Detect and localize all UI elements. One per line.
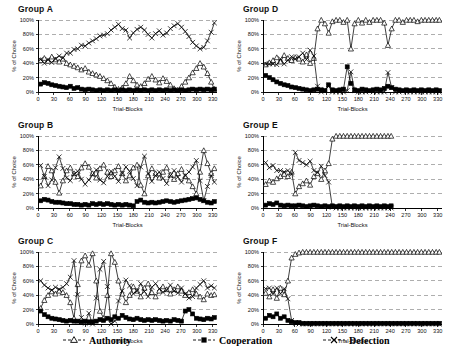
defection-marker [201,45,206,50]
cooperation-marker [142,318,146,322]
series-authority [263,133,394,195]
defection-marker [142,28,147,33]
defection-marker [164,181,169,186]
x-tick-label: 240 [160,212,169,218]
cooperation-marker [150,200,154,204]
legend-label: Cooperation [219,335,272,346]
cooperation-marker [165,88,169,92]
cooperation-marker [79,87,83,91]
authority-marker [212,292,217,297]
defection-marker [308,48,313,53]
cooperation-marker [205,87,209,91]
cooperation-marker [286,84,290,88]
authority-marker [123,81,128,86]
y-axis-title: % of Choice [236,156,242,187]
figure-panel-grid: Group A0%20%40%60%80%100%030609012015018… [0,0,450,363]
legend-marker [331,337,337,343]
cooperation-marker [401,89,405,93]
cooperation-marker [98,318,102,322]
cooperation-marker [124,316,128,320]
cooperation-marker [316,204,320,208]
y-tick-label: 20% [23,191,34,197]
defection-marker [53,165,58,170]
cooperation-marker [102,89,106,93]
cooperation-marker [286,318,290,322]
x-tick-label: 270 [401,212,410,218]
cooperation-marker [124,89,128,93]
cooperation-marker [308,204,312,208]
defection-marker [274,286,279,291]
y-axis-title: % of Choice [236,40,242,71]
defection-marker [109,28,114,33]
cooperation-marker [180,319,184,323]
y-tick-label: 40% [23,60,34,66]
cooperation-marker [131,204,135,208]
authority-marker [385,43,390,48]
cooperation-marker [87,87,91,91]
authority-marker [90,251,95,256]
cooperation-marker [139,198,143,202]
cooperation-marker [68,84,72,88]
y-tick-label: 0% [26,205,34,211]
authority-marker [68,165,73,170]
cooperation-marker [135,88,139,92]
y-tick-label: 60% [248,162,259,168]
y-axis-title: % of Choice [11,156,17,187]
x-tick-label: 210 [370,212,379,218]
cooperation-marker [46,81,50,85]
cooperation-marker [50,200,54,204]
defection-marker [187,34,192,39]
cooperation-marker [98,202,102,206]
x-tick-label: 330 [433,96,442,102]
x-tick-label: 210 [145,96,154,102]
cooperation-marker [120,88,124,92]
y-tick-label: 20% [248,307,259,313]
chart-panel-group-d: Group D0%20%40%60%80%100%030609012015018… [225,2,450,116]
cooperation-marker [267,202,271,206]
cooperation-marker [116,202,120,206]
cooperation-marker [304,88,308,92]
chart-title: Group C [18,236,53,246]
cooperation-marker [205,316,209,320]
cooperation-marker [278,316,282,320]
authority-marker [60,178,65,183]
series-authority [38,148,217,196]
open-triangle-icon [62,334,86,346]
cooperation-marker [109,202,113,206]
cooperation-marker [76,86,80,90]
defection-marker [157,28,162,33]
cooperation-marker [271,315,275,319]
y-tick-label: 100% [245,17,259,23]
legend-marker [71,337,78,343]
cooperation-marker [187,197,191,201]
cooperation-marker [53,317,57,321]
y-axis-title: % of Choice [11,272,17,303]
cooperation-marker [202,318,206,322]
defection-marker [57,154,62,159]
defection-marker [105,174,110,179]
cooperation-marker [187,88,191,92]
authority-marker [123,300,128,305]
defection-marker [38,163,43,168]
cooperation-marker [154,89,158,93]
cooperation-marker [146,318,150,322]
cooperation-marker [212,87,216,91]
authority-marker [112,259,117,264]
cooperation-marker [183,198,187,202]
authority-marker [304,178,309,183]
authority-marker [160,76,165,81]
defection-marker [124,278,129,283]
defection-marker [83,182,88,187]
y-tick-label: 40% [23,176,34,182]
cooperation-marker [53,200,57,204]
y-tick-label: 80% [23,263,34,269]
cooperation-marker [61,318,65,322]
cooperation-marker [94,319,98,323]
cooperation-marker [168,200,172,204]
defection-marker [194,44,199,49]
cooperation-marker [72,202,76,206]
defection-marker [149,179,154,184]
legend-marker [201,337,206,342]
x-tick-label: 90 [308,96,314,102]
cooperation-marker [345,65,349,69]
